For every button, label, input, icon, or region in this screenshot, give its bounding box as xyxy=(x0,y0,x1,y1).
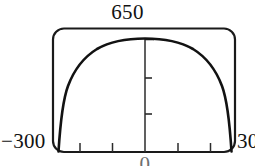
plot-frame xyxy=(53,29,235,153)
x-max-label: 300 xyxy=(237,131,255,152)
x-origin-label: 0 xyxy=(131,154,159,166)
x-min-label: −300 xyxy=(1,131,46,152)
figure-screenshot: 650 −300 300 0 xyxy=(0,0,255,166)
y-max-label: 650 xyxy=(0,2,255,23)
